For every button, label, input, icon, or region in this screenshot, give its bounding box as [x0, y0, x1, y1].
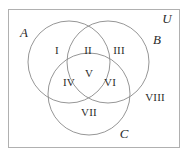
set-label-b: B [153, 33, 161, 46]
region-label-i: I [55, 45, 59, 56]
region-label-viii: VIII [145, 92, 165, 103]
set-label-a: A [20, 26, 28, 39]
venn-diagram-canvas [0, 0, 188, 156]
set-label-c: C [120, 127, 129, 140]
region-label-v: V [85, 68, 93, 79]
region-label-ii: II [84, 45, 92, 56]
universal-set-rectangle [9, 10, 180, 148]
set-circle-b [67, 21, 149, 103]
venn-diagram-figure: U A B C I II III IV V VI VII VIII [0, 0, 188, 156]
region-label-vii: VII [81, 107, 97, 118]
region-label-iii: III [113, 45, 125, 56]
set-circle-c [48, 53, 130, 135]
universal-set-label: U [162, 12, 171, 25]
set-circle-a [28, 21, 110, 103]
region-label-iv: IV [63, 77, 75, 88]
region-label-vi: VI [104, 77, 116, 88]
